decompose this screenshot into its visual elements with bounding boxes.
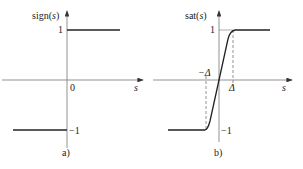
diagram-canvas: sign(s) 1 0 s −1 a) sat(s) 1 −Δ Δ s −1 b… [0,0,303,169]
panel-b-tick-neg1: −1 [221,125,232,136]
panel-b-x-label: s [282,82,286,93]
panel-b-y-label: sat(s) [185,10,207,22]
panel-a-caption: a) [62,147,70,159]
panel-b-pos-delta-label: Δ [228,82,235,93]
panel-b-caption: b) [214,147,222,159]
panel-a-origin-label: 0 [70,82,75,93]
panel-a-y-label: sign(s) [32,10,59,22]
panel-b-neg-delta-label: −Δ [198,67,211,78]
panel-b-saturation-function: sat(s) 1 −Δ Δ s −1 b) [153,10,292,159]
panel-a-tick-neg1: −1 [69,125,80,136]
panel-a-tick-1: 1 [58,24,63,35]
panel-a-sign-function: sign(s) 1 0 s −1 a) [2,10,143,159]
panel-b-tick-1: 1 [210,24,215,35]
panel-a-x-label: s [134,82,138,93]
